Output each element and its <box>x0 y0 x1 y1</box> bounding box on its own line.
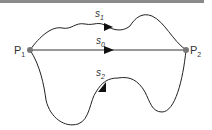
arrow-s1-icon <box>104 23 113 31</box>
label-s1: s1 <box>95 8 104 21</box>
point-p1 <box>27 47 33 53</box>
path-diagram: P1 P2 s1 s0 s2 <box>0 0 212 130</box>
path-s1 <box>30 15 186 50</box>
label-p2: P2 <box>190 44 201 58</box>
arrow-s0-icon <box>104 46 114 54</box>
label-p1: P1 <box>14 44 25 58</box>
path-s2 <box>30 50 186 125</box>
point-p2 <box>183 47 189 53</box>
label-s2: s2 <box>96 67 105 80</box>
label-s0: s0 <box>96 35 105 48</box>
